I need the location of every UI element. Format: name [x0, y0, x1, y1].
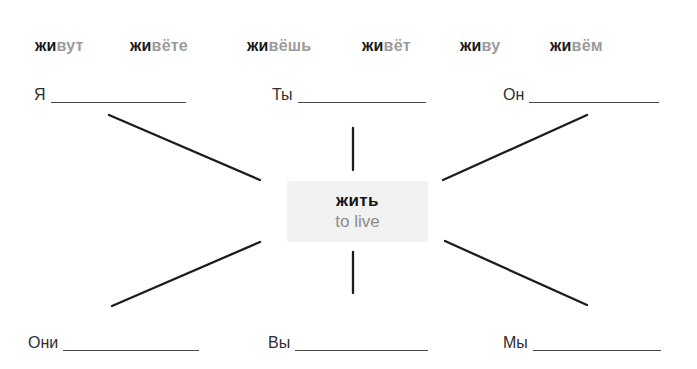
word-stem: жи	[362, 37, 384, 54]
word-option-zhivut[interactable]: живут	[35, 37, 84, 55]
word-stem: жи	[35, 37, 57, 54]
word-stem: жи	[247, 37, 269, 54]
word-option-zhivyote[interactable]: живёте	[130, 37, 188, 55]
word-ending: вёте	[152, 37, 188, 54]
prompt-oni: Они	[28, 335, 199, 351]
prompt-ya: Я	[34, 87, 186, 103]
pronoun-label: Они	[28, 335, 58, 351]
word-ending: вёшь	[269, 37, 312, 54]
connector-line-on	[443, 115, 587, 180]
verb-translation: to live	[335, 211, 379, 233]
answer-blank-my[interactable]	[533, 335, 661, 351]
word-option-zhivyot[interactable]: живёт	[362, 37, 411, 55]
pronoun-label: Я	[34, 87, 46, 103]
answer-blank-vy[interactable]	[295, 335, 428, 351]
verb-card: жить to live	[287, 181, 428, 242]
answer-blank-on[interactable]	[529, 87, 659, 103]
answer-blank-oni[interactable]	[63, 335, 199, 351]
conjugation-worksheet: живут живёте живёшь живёт живу живём Я Т…	[0, 0, 697, 369]
word-ending: вёт	[384, 37, 411, 54]
pronoun-label: Вы	[268, 335, 290, 351]
word-stem: жи	[130, 37, 152, 54]
pronoun-label: Он	[503, 87, 524, 103]
connector-line-ya	[109, 115, 260, 180]
word-option-zhivu[interactable]: живу	[460, 37, 500, 55]
connector-line-my	[445, 241, 587, 305]
word-stem: жи	[460, 37, 482, 54]
prompt-ty: Ты	[272, 87, 426, 103]
prompt-on: Он	[503, 87, 659, 103]
word-option-zhivyom[interactable]: живём	[550, 37, 603, 55]
word-ending: вём	[572, 37, 603, 54]
pronoun-label: Мы	[503, 335, 528, 351]
answer-blank-ya[interactable]	[51, 87, 186, 103]
prompt-vy: Вы	[268, 335, 428, 351]
verb-infinitive: жить	[336, 191, 379, 211]
word-ending: ву	[482, 37, 501, 54]
answer-blank-ty[interactable]	[298, 87, 426, 103]
connector-line-oni	[112, 242, 260, 306]
word-option-zhivyosh[interactable]: живёшь	[247, 37, 311, 55]
pronoun-label: Ты	[272, 87, 293, 103]
prompt-my: Мы	[503, 335, 661, 351]
word-ending: вут	[57, 37, 84, 54]
word-stem: жи	[550, 37, 572, 54]
